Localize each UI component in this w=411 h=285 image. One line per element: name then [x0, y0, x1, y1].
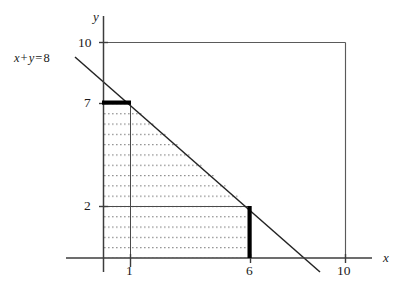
equation-rhs: 8 — [43, 51, 49, 65]
line-equation-label: x + y = 8 — [14, 52, 50, 65]
x-tick-label-10: 10 — [337, 264, 351, 278]
x-tick-label-6: 6 — [246, 264, 253, 278]
equation-plus: + — [21, 51, 28, 65]
x-axis-label: x — [383, 251, 389, 264]
y-tick-label-2: 2 — [84, 199, 91, 213]
y-tick-label-7: 7 — [84, 96, 91, 110]
y-tick-label-10: 10 — [78, 36, 92, 50]
math-figure — [0, 0, 411, 285]
y-axis-label: y — [93, 10, 99, 23]
x-tick-label-1: 1 — [126, 264, 133, 278]
